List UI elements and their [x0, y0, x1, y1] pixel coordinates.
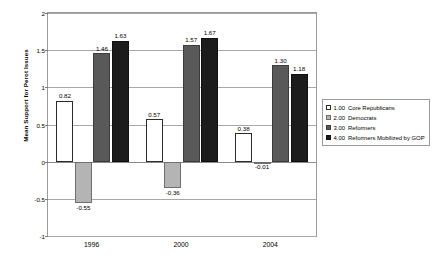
plot-area: 21.510.50-0.5-10.82-0.551.461.630.57-0.3…: [47, 12, 317, 237]
y-axis-tick-label: 1: [42, 84, 45, 91]
bar-value-label: 1.46: [96, 45, 108, 52]
bar[interactable]: [272, 65, 289, 162]
y-axis-tick-label: -1: [39, 233, 45, 240]
bar-value-label: 0.57: [148, 111, 160, 118]
y-axis-title: Mean Support for Perot Issues: [22, 16, 29, 176]
bar[interactable]: [183, 45, 200, 162]
bar[interactable]: [112, 41, 129, 162]
bar[interactable]: [235, 133, 252, 161]
bar-value-label: -0.01: [255, 163, 269, 170]
x-axis-category-label: 2004: [263, 241, 278, 248]
x-axis-category-label: 2000: [173, 241, 188, 248]
y-axis-tick-label: 1.5: [36, 47, 45, 54]
y-axis-tick-label: 0.5: [36, 121, 45, 128]
chart-legend: 1.00 Core Republicans 2.00 Democrats 3.0…: [322, 99, 430, 146]
legend-item-reformers-mobilized-by-gop[interactable]: 4.00 Reformers Mobilized by GOP: [326, 133, 426, 142]
bar-value-label: 0.82: [59, 92, 71, 99]
bar-group: 0.38-0.011.301.18: [227, 13, 316, 236]
bar-value-label: 1.30: [275, 57, 287, 64]
bar[interactable]: [93, 53, 110, 162]
bar-value-label: 1.57: [185, 36, 197, 43]
legend-key-democrats: 2.00: [334, 115, 345, 121]
chart-root: Mean Support for Perot Issues 21.510.50-…: [0, 0, 434, 256]
legend-label-core-republicans: Core Republicans: [348, 105, 395, 111]
y-axis-tick-label: -0.5: [34, 195, 45, 202]
legend-swatch-reformers: [326, 125, 331, 130]
legend-key-reformers-mobilized-by-gop: 4.00: [334, 135, 345, 141]
bar[interactable]: [201, 38, 218, 162]
legend-item-reformers[interactable]: 3.00 Reformers: [326, 123, 426, 132]
bar-value-label: -0.55: [76, 204, 90, 211]
x-axis-category-label: 1996: [84, 241, 99, 248]
bar[interactable]: [56, 101, 73, 162]
legend-key-core-republicans: 1.00: [334, 105, 345, 111]
legend-swatch-reformers-mobilized-by-gop: [326, 135, 331, 140]
legend-key-reformers: 3.00: [334, 125, 345, 131]
bar-value-label: 1.18: [293, 65, 305, 72]
bar-value-label: 1.67: [204, 29, 216, 36]
legend-item-democrats[interactable]: 2.00 Democrats: [326, 113, 426, 122]
bar[interactable]: [164, 162, 181, 189]
bar[interactable]: [146, 119, 163, 161]
bar[interactable]: [75, 162, 92, 203]
bar-group: 0.82-0.551.461.63: [48, 13, 137, 236]
bar-value-label: 1.63: [114, 32, 126, 39]
bar-group: 0.57-0.361.571.67: [137, 13, 226, 236]
bar-value-label: 0.38: [238, 125, 250, 132]
gridline: -1: [48, 236, 316, 237]
legend-swatch-democrats: [326, 115, 331, 120]
legend-label-democrats: Democrats: [348, 115, 376, 121]
bar-value-label: -0.36: [166, 189, 180, 196]
legend-item-core-republicans[interactable]: 1.00 Core Republicans: [326, 103, 426, 112]
legend-label-reformers-mobilized-by-gop: Reformers Mobilized by GOP: [348, 135, 425, 141]
bar[interactable]: [291, 74, 308, 162]
legend-label-reformers: Reformers: [348, 125, 376, 131]
legend-swatch-core-republicans: [326, 105, 331, 110]
y-axis-tick-label: 2: [42, 10, 45, 17]
y-axis-tick-label: 0: [42, 158, 45, 165]
